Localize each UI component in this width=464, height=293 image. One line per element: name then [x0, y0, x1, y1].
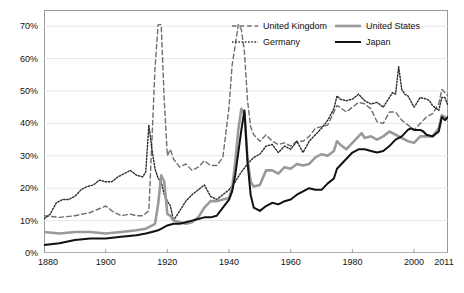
x-tick-label: 1920: [147, 257, 187, 267]
x-tick-label: 1900: [86, 257, 126, 267]
legend-item-japan[interactable]: Japan: [335, 37, 438, 47]
y-tick-label: 50%: [0, 86, 38, 96]
y-tick-label: 40%: [0, 118, 38, 128]
legend-item-united-states[interactable]: United States: [335, 21, 438, 31]
x-axis-ticks: [44, 249, 448, 253]
series-line-japan: [44, 110, 448, 244]
legend-line-icon: [335, 38, 361, 46]
y-tick-label: 60%: [0, 54, 38, 64]
legend-label: United States: [366, 21, 420, 31]
legend-line-icon: [232, 22, 258, 30]
legend-label: United Kingdom: [263, 21, 327, 31]
series-lines: [44, 25, 448, 245]
chart-legend: United Kingdom United States Germany Jap…: [232, 18, 438, 50]
legend-row: United Kingdom United States: [232, 18, 438, 34]
x-tick-label: 1980: [332, 257, 372, 267]
y-tick-label: 30%: [0, 151, 38, 161]
legend-row: Germany Japan: [232, 34, 438, 50]
chart-container: 0% 10% 20% 30% 40% 50% 60% 70% 1880 1900…: [0, 0, 464, 293]
legend-line-icon: [335, 22, 361, 30]
legend-item-germany[interactable]: Germany: [232, 37, 335, 47]
y-tick-label: 70%: [0, 21, 38, 31]
y-tick-label: 20%: [0, 183, 38, 193]
legend-label: Germany: [263, 37, 300, 47]
legend-label: Japan: [366, 37, 391, 47]
legend-line-icon: [232, 38, 258, 46]
x-tick-label: 1960: [271, 257, 311, 267]
x-tick-label: 2011: [424, 257, 464, 267]
x-tick-label: 1880: [28, 257, 68, 267]
legend-item-united-kingdom[interactable]: United Kingdom: [232, 21, 335, 31]
x-tick-label: 1940: [209, 257, 249, 267]
y-tick-label: 10%: [0, 216, 38, 226]
